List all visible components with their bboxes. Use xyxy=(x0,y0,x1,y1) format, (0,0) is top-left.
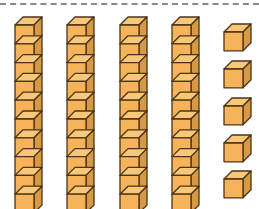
cube-front-face xyxy=(224,179,243,198)
cube-front-face xyxy=(224,32,243,51)
cube-front-face xyxy=(15,194,34,209)
cube-front-face xyxy=(224,143,243,162)
tens-rod xyxy=(67,17,94,209)
tens-rod xyxy=(120,17,147,209)
cube-front-face xyxy=(172,194,191,209)
tens-rod xyxy=(15,17,42,209)
cube-front-face xyxy=(120,194,139,209)
unit-cube xyxy=(224,24,251,51)
unit-cube xyxy=(224,61,251,88)
cube-front-face xyxy=(224,69,243,88)
unit-cube xyxy=(224,98,251,125)
cube-front-face xyxy=(67,194,86,209)
unit-cube xyxy=(224,135,251,162)
cube-front-face xyxy=(224,106,243,125)
tens-rod xyxy=(172,17,199,209)
base-ten-blocks-diagram xyxy=(0,0,259,209)
unit-cube xyxy=(224,171,251,198)
